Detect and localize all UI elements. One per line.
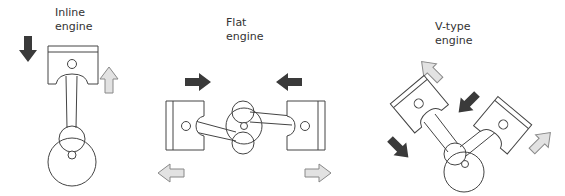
inline-crank-center xyxy=(68,151,76,159)
flat-arrow-right-icon xyxy=(185,73,211,91)
v-crank-center xyxy=(462,161,469,168)
v-crank-wheel xyxy=(444,152,484,192)
inline-engine xyxy=(19,36,118,186)
v-arrow-down-right-icon xyxy=(384,133,415,164)
flat-arrow-left-light-icon xyxy=(158,164,184,182)
flat-arrow-left-icon xyxy=(276,73,302,91)
flat-left-piston-pin xyxy=(182,122,191,131)
flat-right-rod xyxy=(250,112,292,125)
v-arrow-up-right-light-icon xyxy=(526,126,557,157)
v-arrow-down-left-icon xyxy=(452,88,483,119)
flat-arrow-right-light-icon xyxy=(305,164,331,182)
v-left-rod xyxy=(424,114,458,152)
inline-arrow-up-icon xyxy=(100,67,118,93)
v-type-engine xyxy=(384,55,557,192)
v-right-piston xyxy=(474,97,532,154)
inline-connecting-rod xyxy=(66,76,77,128)
engine-diagram-canvas xyxy=(0,0,565,196)
inline-crank-wheel xyxy=(48,138,96,186)
flat-crank-center xyxy=(241,123,248,130)
flat-engine xyxy=(158,73,331,182)
inline-piston-pin xyxy=(68,60,77,69)
flat-right-piston-pin xyxy=(301,122,310,131)
inline-arrow-down-icon xyxy=(19,36,37,62)
v-left-piston xyxy=(390,76,448,133)
